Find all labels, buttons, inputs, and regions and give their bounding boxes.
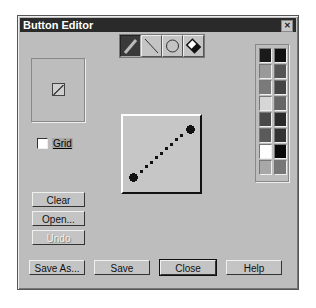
- color-swatch[interactable]: [259, 96, 272, 111]
- checkbox-box[interactable]: [37, 138, 48, 149]
- color-swatch[interactable]: [274, 48, 287, 63]
- undo-button: Undo: [32, 230, 85, 245]
- canvas-drawing: [123, 116, 200, 192]
- color-swatch[interactable]: [274, 144, 287, 159]
- open-button[interactable]: Open...: [32, 211, 85, 226]
- grid-label: Grid: [52, 138, 73, 149]
- pencil-tool[interactable]: [120, 35, 141, 57]
- ellipse-icon: [163, 36, 182, 56]
- color-palette: [255, 44, 289, 182]
- grid-checkbox[interactable]: Grid: [37, 138, 73, 149]
- color-swatch[interactable]: [274, 160, 287, 175]
- line-icon: [142, 36, 161, 56]
- button-editor-window: Button Editor ✕ Grid Clear Open... Undo: [17, 15, 299, 290]
- save-button[interactable]: Save: [94, 260, 150, 275]
- color-swatch[interactable]: [274, 112, 287, 127]
- color-swatch[interactable]: [259, 144, 272, 159]
- color-swatch[interactable]: [274, 64, 287, 79]
- diagonal-line-icon: [52, 83, 65, 96]
- line-tool[interactable]: [141, 35, 162, 57]
- color-swatch[interactable]: [259, 48, 272, 63]
- color-swatch[interactable]: [259, 112, 272, 127]
- title-bar[interactable]: Button Editor ✕: [20, 18, 296, 32]
- help-button[interactable]: Help: [226, 260, 282, 275]
- tool-bar: [119, 34, 205, 58]
- color-swatch[interactable]: [274, 128, 287, 143]
- button-preview: [31, 58, 85, 122]
- color-swatch[interactable]: [259, 64, 272, 79]
- eraser-icon: [184, 36, 203, 56]
- clear-button[interactable]: Clear: [32, 192, 85, 207]
- color-swatch[interactable]: [274, 80, 287, 95]
- color-swatch[interactable]: [259, 128, 272, 143]
- color-swatch[interactable]: [274, 96, 287, 111]
- eraser-tool[interactable]: [183, 35, 204, 57]
- pencil-icon: [121, 36, 140, 56]
- ellipse-tool[interactable]: [162, 35, 183, 57]
- color-swatch[interactable]: [259, 160, 272, 175]
- close-icon[interactable]: ✕: [281, 20, 293, 32]
- window-title: Button Editor: [23, 19, 93, 31]
- color-swatch[interactable]: [259, 80, 272, 95]
- save-as-button[interactable]: Save As...: [29, 260, 85, 275]
- close-button[interactable]: Close: [160, 260, 216, 275]
- drawing-canvas[interactable]: [121, 114, 202, 194]
